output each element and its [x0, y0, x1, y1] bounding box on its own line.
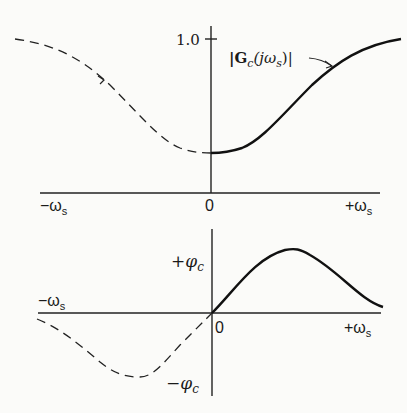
magnitude-plot: 1.0 |Gc(jωs)| −ωs 0 +ωs — [15, 26, 401, 217]
phase-pos-label: +φc — [171, 251, 204, 274]
phase-dashed-curve — [37, 313, 212, 377]
bottom-x-right-label: +ωs — [344, 319, 372, 339]
bottom-x-zero-label: 0 — [215, 319, 224, 336]
top-x-zero-label: 0 — [205, 197, 214, 214]
label-leader-arrow — [309, 58, 332, 66]
top-x-right-label: +ωs — [345, 197, 373, 217]
top-y-tick-label: 1.0 — [176, 31, 200, 49]
magnitude-dashed-curve — [15, 39, 211, 153]
magnitude-curve-label: |Gc(jωs)| — [229, 49, 293, 70]
bottom-x-left-label: −ωs — [38, 292, 66, 312]
phase-solid-curve — [212, 249, 383, 313]
top-x-left-label: −ωs — [40, 197, 68, 217]
leader-arrowhead-icon — [325, 61, 332, 68]
figure: 1.0 |Gc(jωs)| −ωs 0 +ωs +φc −φc −ωs 0 +ω… — [0, 0, 407, 413]
phase-neg-label: −φc — [166, 373, 199, 396]
phase-plot: +φc −φc −ωs 0 +ωs — [37, 229, 383, 396]
